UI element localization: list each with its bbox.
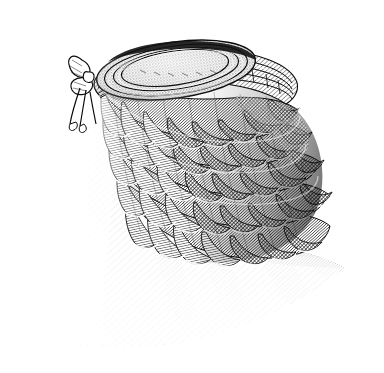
engraving-artwork	[0, 0, 384, 373]
illustration-canvas: Ruffled Tiered Bonnet Veil Engraving tie…	[0, 0, 384, 373]
